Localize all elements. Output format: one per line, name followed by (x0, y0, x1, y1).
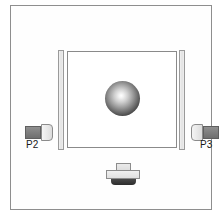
port-left-label: P2 (26, 139, 38, 150)
port-right-label: P3 (200, 139, 212, 150)
mount-base (111, 179, 136, 185)
left-vertical-plate (58, 50, 64, 150)
right-vertical-plate (179, 50, 185, 150)
bottom-mount-assembly (105, 163, 141, 185)
outer-enclosure-frame: P2 P3 (10, 5, 212, 210)
port-right-body-icon (203, 126, 219, 139)
port-left-connector-icon (41, 124, 53, 141)
central-sphere (105, 81, 140, 116)
diagram-canvas: P2 P3 (0, 0, 220, 216)
mount-body (106, 170, 140, 179)
port-left-body-icon (25, 126, 41, 139)
